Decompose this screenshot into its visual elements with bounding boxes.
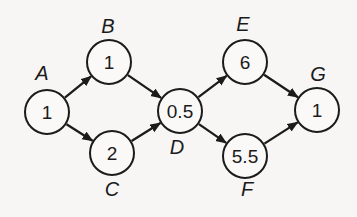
diagram-canvas: 1A1B2C0.5D6E5.5F1G [0, 0, 357, 217]
node-value-D: 0.5 [167, 101, 193, 122]
node-label-G: G [310, 63, 326, 85]
node-value-C: 2 [107, 143, 118, 164]
edge-C-D [132, 123, 161, 141]
edge-B-D [128, 75, 161, 98]
node-value-B: 1 [104, 52, 115, 73]
node-label-A: A [34, 62, 48, 84]
edge-D-F [199, 124, 226, 143]
node-label-F: F [241, 178, 255, 200]
node-label-B: B [101, 15, 114, 37]
graph-diagram: 1A1B2C0.5D6E5.5F1G [0, 0, 357, 217]
node-value-A: 1 [42, 102, 53, 123]
node-value-E: 6 [240, 52, 251, 73]
edge-E-G [264, 75, 298, 97]
node-value-G: 1 [312, 100, 323, 121]
node-label-E: E [236, 13, 250, 35]
node-label-D: D [170, 136, 184, 158]
edge-F-G [264, 122, 297, 143]
node-value-F: 5.5 [232, 146, 258, 167]
node-label-C: C [105, 178, 120, 200]
edge-D-E [198, 76, 226, 97]
edge-A-B [65, 76, 91, 97]
edge-A-C [67, 124, 93, 140]
